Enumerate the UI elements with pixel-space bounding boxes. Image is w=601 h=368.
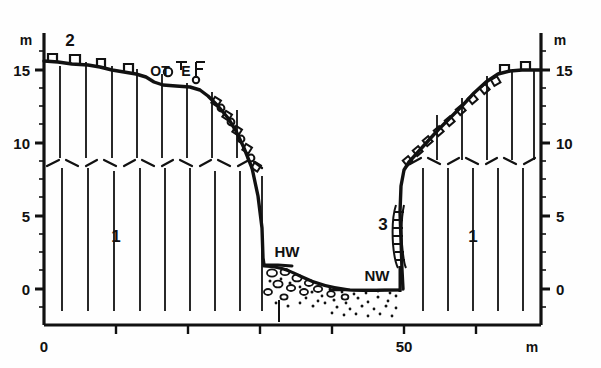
high-water-label: HW (275, 243, 301, 260)
axis-left-unit: m (20, 32, 32, 48)
axis-bottom-unit: m (526, 339, 538, 355)
unit-label-2: 2 (65, 31, 74, 50)
axis-left-tick-15: 15 (13, 62, 30, 79)
axis-right-tick-5: 5 (556, 208, 564, 225)
axis-bottom-tick-50: 50 (396, 338, 413, 355)
riverbed-pebbles (264, 269, 348, 300)
marker-label-e: E (181, 63, 190, 79)
unit-label-3: 3 (378, 215, 387, 234)
axis-left-tick-0: 0 (22, 281, 30, 298)
cross-section-svg: m 15 10 5 0 m 15 10 5 0 0 50 m (0, 0, 601, 368)
axis-right-tick-15: 15 (556, 62, 573, 79)
marker-label-ot: OT (150, 63, 170, 79)
low-water-label: NW (365, 267, 391, 284)
unit-boundary-right (410, 158, 535, 164)
axis-right-tick-0: 0 (556, 281, 564, 298)
hatching-upper-left (60, 62, 237, 158)
axis-right (541, 33, 550, 325)
axis-right-unit: m (554, 32, 566, 48)
ground-surface-left (44, 61, 264, 265)
axis-bottom (44, 325, 541, 334)
unit-boundary-left (47, 160, 262, 168)
hatching-lower-left (62, 168, 262, 311)
axis-left-tick-10: 10 (13, 135, 30, 152)
axis-bottom-tick-0: 0 (40, 338, 48, 355)
axis-left (35, 33, 44, 325)
axis-right-tick-10: 10 (556, 135, 573, 152)
unit-label-1-right: 1 (468, 227, 477, 246)
axis-left-tick-5: 5 (22, 208, 30, 225)
cross-section-figure: m 15 10 5 0 m 15 10 5 0 0 50 m (0, 0, 601, 368)
unit-label-1-left: 1 (111, 227, 120, 246)
